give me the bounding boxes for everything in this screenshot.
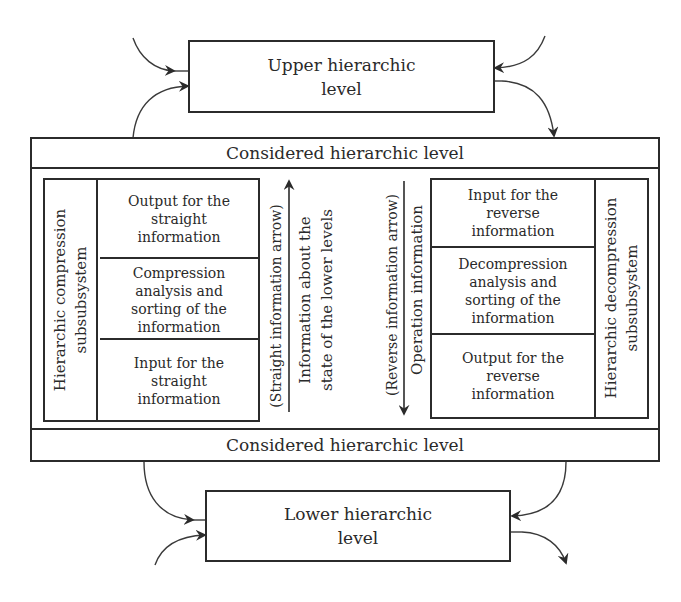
straight-arrow-label: Information about the state of the lower… (294, 209, 338, 391)
cell-line: Output for the (128, 192, 230, 210)
straight-label-line2: state of the lower levels (316, 209, 338, 391)
lower-left-out-arrow (144, 462, 193, 520)
lower-right-in-arrow (512, 462, 566, 516)
cell-line: sorting of the (465, 291, 561, 309)
lower-left-in-arrow (155, 535, 205, 565)
top-header-label: Considered hierarchic level (226, 143, 464, 163)
output-straight-information-cell: Output for the straight information (100, 180, 258, 259)
cell-line: information (138, 228, 221, 246)
input-reverse-information-cell: Input for the reverse information (432, 180, 596, 248)
cell-line: Input for the (134, 354, 224, 372)
upper-left-in-arrow (133, 86, 188, 138)
cell-line: information (138, 318, 221, 336)
straight-label-line1: Information about the (294, 209, 316, 391)
cell-line: information (472, 385, 555, 403)
cell-line: reverse (486, 204, 539, 222)
cell-line: sorting of the (131, 300, 227, 318)
decompression-analysis-cell: Decompression analysis and sorting of th… (432, 248, 596, 335)
input-straight-information-cell: Input for the straight information (100, 342, 258, 420)
upper-level-label-line1: Upper hierarchic (268, 53, 416, 77)
cell-line: information (138, 390, 221, 408)
lower-right-out-arrow (522, 532, 566, 563)
compression-title-line1: Hierarchic compression (50, 209, 71, 391)
reverse-caption-text: (Reverse information arrow) (384, 194, 400, 396)
compression-analysis-cell: Compression analysis and sorting of the … (100, 261, 258, 340)
lower-level-label-line1: Lower hierarchic (284, 502, 432, 526)
reverse-arrow-label: Operation information (408, 205, 426, 375)
decompression-title-line1: Hierarchic decompression (601, 198, 622, 399)
reverse-arrow-caption: (Reverse information arrow) (383, 194, 401, 396)
considered-level-top-header: Considered hierarchic level (32, 139, 658, 169)
cell-line: Decompression (458, 255, 567, 273)
bottom-header-label: Considered hierarchic level (226, 435, 464, 455)
upper-hierarchic-level-box: Upper hierarchic level (188, 40, 495, 113)
cell-line: analysis and (135, 282, 223, 300)
upper-level-label-line2: level (321, 77, 362, 101)
upper-right-in-arrow (495, 36, 545, 68)
cell-line: information (472, 222, 555, 240)
cell-line: information (472, 309, 555, 327)
output-reverse-information-cell: Output for the reverse information (432, 335, 596, 417)
cell-line: analysis and (469, 273, 557, 291)
compression-title-line2: subsubsystem (71, 209, 92, 391)
cell-line: Input for the (468, 186, 558, 204)
upper-right-out-arrow (502, 81, 554, 136)
cell-line: Compression (133, 264, 226, 282)
lower-hierarchic-level-box: Lower hierarchic level (205, 490, 511, 562)
decompression-title-line2: subsubsystem (622, 198, 643, 399)
compression-subsystem-title-column: Hierarchic compression subsubsystem (45, 180, 98, 420)
cell-line: straight (151, 210, 207, 228)
upper-left-out-arrow (133, 38, 174, 71)
decompression-subsystem-title: Hierarchic decompression subsubsystem (601, 198, 643, 399)
cell-line: Output for the (462, 349, 564, 367)
decompression-subsystem-title-column: Hierarchic decompression subsubsystem (596, 180, 647, 417)
compression-subsystem-title: Hierarchic compression subsubsystem (50, 209, 92, 391)
cell-line: reverse (486, 367, 539, 385)
considered-level-bottom-header: Considered hierarchic level (32, 428, 658, 460)
straight-caption-text: (Straight information arrow) (268, 204, 284, 407)
cell-line: straight (151, 372, 207, 390)
reverse-label-text: Operation information (408, 205, 426, 375)
lower-level-label-line2: level (338, 526, 379, 550)
straight-arrow-caption: (Straight information arrow) (267, 204, 285, 407)
